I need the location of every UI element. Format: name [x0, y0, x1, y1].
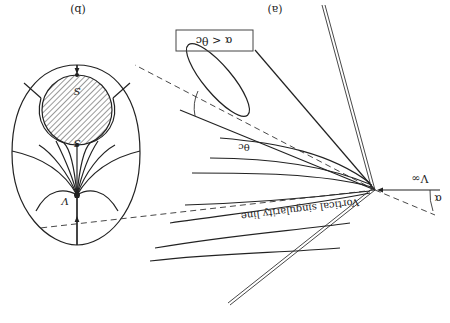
panel-a-label: (a): [267, 3, 282, 16]
body-circle: [42, 75, 112, 145]
panel-a-flow: [40, 5, 440, 305]
singularity-label: Vortical singularity line: [240, 197, 360, 223]
node-v-label: V: [60, 196, 69, 207]
saddle-bottom-label: S: [73, 138, 80, 149]
saddle-top-dot: [75, 73, 79, 77]
panel-b-label: (b): [70, 3, 86, 16]
alpha-label: α: [434, 192, 442, 205]
figure: (a) (b) α < θc V∞ α θc Vortical singular…: [0, 0, 450, 323]
condition-text: α < θc: [196, 34, 232, 47]
freestream-label: V∞: [411, 172, 429, 185]
theta-label: θc: [238, 142, 250, 153]
saddle-top-label: S: [73, 86, 80, 97]
